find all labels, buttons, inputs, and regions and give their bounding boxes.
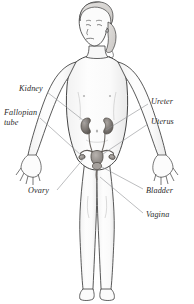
bladder — [92, 162, 101, 169]
label-uterus: Uterus — [151, 117, 174, 127]
label-ovary: Ovary — [28, 186, 49, 196]
label-kidney: Kidney — [19, 84, 43, 94]
anatomy-illustration — [0, 0, 194, 304]
vagina — [96, 169, 97, 180]
left-foot — [80, 289, 95, 301]
navel — [96, 130, 98, 133]
neck — [86, 46, 108, 59]
label-bladder: Bladder — [146, 186, 173, 196]
nipple-left — [83, 95, 85, 97]
label-vagina: Vagina — [146, 210, 169, 220]
label-fallopian-tube-line1: Fallopian — [4, 108, 37, 117]
label-fallopian-tube: Fallopian tube — [4, 108, 48, 127]
label-fallopian-tube-line2: tube — [4, 118, 19, 127]
label-ureter: Ureter — [151, 97, 173, 107]
right-foot — [100, 289, 115, 301]
nipple-right — [109, 95, 111, 97]
